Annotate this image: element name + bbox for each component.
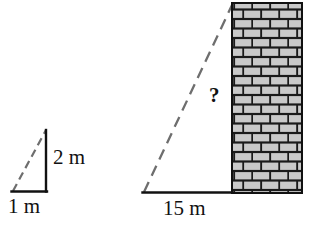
brick-wall-group: [232, 3, 302, 193]
unknown-height-label: ?: [209, 85, 220, 106]
small-triangle-base-label: 1 m: [8, 196, 40, 217]
small-triangle-height-label: 2 m: [53, 147, 85, 168]
geometry-diagram: 2 m 1 m 15 m ?: [0, 0, 314, 233]
brick-wall-fill: [232, 3, 302, 193]
large-triangle-base-label: 15 m: [163, 198, 206, 219]
diagram-canvas: [0, 0, 314, 233]
